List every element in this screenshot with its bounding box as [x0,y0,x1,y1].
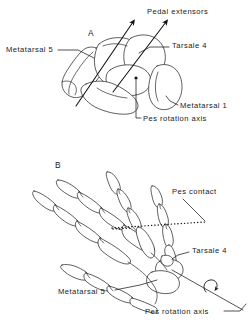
pes-rotation-axis-point-a [134,76,137,79]
label-pes-rotation-axis-a: Pes rotation axis [143,114,207,123]
label-tarsale-4-a: Tarsale 4 [172,41,207,50]
panel-b-letter: B [55,160,61,170]
label-tarsale-4-b: Tarsale 4 [192,246,227,255]
label-metatarsal-5-b: Metatarsal 5 [58,287,105,296]
panel-b-group: B [33,160,246,316]
anatomical-figure: A [0,0,252,327]
leader-pes-contact-b [183,199,205,221]
pes-rotation-axis-line-b [172,270,243,310]
bone-metatarsal-1-a [149,64,182,109]
label-pedal-extensors: Pedal extensors [147,7,208,16]
metatarsal-d3 [136,227,155,258]
panel-a-group: A [6,7,227,123]
rotation-curved-arrow-b [204,280,217,292]
label-metatarsal-1-a: Metatarsal 1 [180,101,227,110]
figure-canvas: A [0,0,252,327]
phalanx-d4-proximal [163,224,174,248]
label-pes-rotation-axis-b: Pes rotation axis [145,307,209,316]
label-pes-contact-b: Pes contact [172,187,217,196]
panel-a-letter: A [88,28,94,38]
label-metatarsal-5-a: Metatarsal 5 [6,45,53,54]
pes-contact-dotted-line [112,222,205,228]
